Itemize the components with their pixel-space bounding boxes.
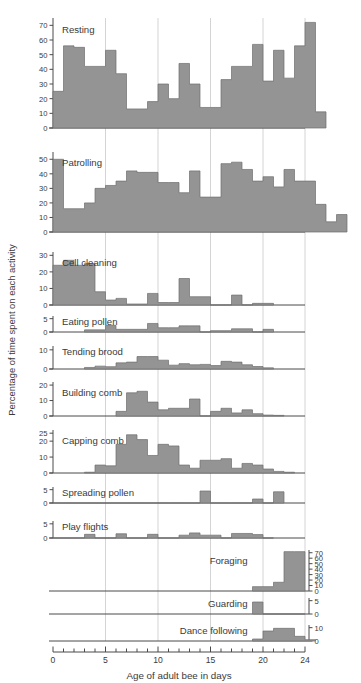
y-tick-label: 5	[315, 597, 319, 606]
y-tick-label: 10	[315, 624, 323, 633]
y-tick-label: 20	[39, 199, 47, 208]
bars-resting	[53, 22, 326, 128]
y-axis-title: Percentage of time spent on each activit…	[6, 244, 17, 416]
x-tick-label: 5	[103, 655, 108, 665]
bars-play-flights	[53, 533, 274, 538]
y-tick-label: 30	[39, 251, 47, 260]
panel-label: Capping comb	[62, 435, 124, 446]
panel-dance-following: 010Dance following	[49, 624, 323, 646]
y-tick-label: 20	[39, 437, 47, 446]
y-tick-label: 5	[43, 486, 47, 495]
x-tick-label: 20	[258, 655, 268, 665]
panel-guarding: 05Guarding	[49, 597, 319, 619]
panel-building-comb: 01020Building comb	[39, 381, 305, 421]
y-tick-label: 10	[39, 346, 47, 355]
y-tick-label: 5	[43, 315, 47, 324]
y-tick-label: 10	[39, 109, 47, 118]
panel-label: Tending brood	[62, 346, 123, 357]
y-tick-label: 20	[39, 95, 47, 104]
y-tick-label: 10	[39, 284, 47, 293]
y-tick-label: 70	[315, 549, 323, 558]
panel-label: Guarding	[208, 598, 247, 609]
panel-label: Spreading pollen	[62, 487, 134, 498]
panel-label: Building comb	[62, 387, 122, 398]
activity-panels-chart: 010203040506070Resting01020304050Patroll…	[0, 0, 361, 683]
bars-building-comb	[116, 391, 284, 416]
panel-label: Play flights	[62, 521, 109, 532]
panel-patrolling: 01020304050Patrolling	[39, 152, 347, 237]
y-tick-label: 20	[39, 381, 47, 390]
panel-label: Eating pollen	[62, 316, 117, 327]
y-tick-label: 25	[39, 429, 47, 438]
y-tick-label: 0	[43, 365, 47, 374]
y-tick-label: 0	[43, 301, 47, 310]
y-tick-label: 0	[43, 412, 47, 421]
panel-foraging: 010203040506070Foraging	[49, 549, 323, 596]
y-tick-label: 30	[39, 184, 47, 193]
y-tick-label: 0	[315, 637, 319, 646]
panel-cell-cleaning: 0102030Cell cleaning	[39, 251, 305, 310]
y-tick-label: 50	[39, 155, 47, 164]
panel-resting: 010203040506070Resting	[39, 18, 326, 133]
x-tick-label: 24	[300, 655, 310, 665]
panel-label: Foraging	[210, 555, 248, 566]
y-tick-label: 20	[39, 268, 47, 277]
panel-label: Dance following	[180, 625, 248, 636]
bars-tending-brood	[85, 357, 274, 369]
bars-guarding	[253, 602, 306, 614]
x-tick-label: 15	[206, 655, 216, 665]
y-tick-label: 5	[43, 520, 47, 529]
x-axis-title: Age of adult bee in days	[126, 670, 231, 681]
y-tick-label: 0	[43, 328, 47, 337]
panel-label: Resting	[62, 24, 95, 35]
y-tick-label: 40	[39, 65, 47, 74]
y-tick-label: 10	[39, 213, 47, 222]
y-tick-label: 30	[39, 80, 47, 89]
bars-dance-following	[253, 628, 316, 641]
y-tick-label: 10	[39, 396, 47, 405]
y-tick-label: 0	[43, 124, 47, 133]
y-tick-label: 50	[39, 51, 47, 60]
y-tick-label: 70	[39, 21, 47, 30]
panel-capping-comb: 0102025Capping comb	[39, 429, 305, 478]
bee-activity-figure: 010203040506070Resting01020304050Patroll…	[0, 0, 361, 683]
bars-foraging	[253, 552, 306, 591]
y-tick-label: 0	[43, 469, 47, 478]
panel-spreading-pollen: 05Spreading pollen	[43, 486, 305, 508]
bars-patrolling	[53, 159, 347, 232]
panel-eating-pollen: 05Eating pollen	[43, 315, 305, 337]
y-tick-label: 0	[43, 499, 47, 508]
y-tick-label: 0	[43, 534, 47, 543]
y-tick-label: 10	[39, 453, 47, 462]
y-tick-label: 60	[39, 36, 47, 45]
panel-tending-brood: 010Tending brood	[39, 346, 305, 374]
panel-label: Cell cleaning	[62, 257, 117, 268]
x-tick-label: 0	[51, 655, 56, 665]
panel-label: Patrolling	[62, 157, 102, 168]
y-tick-label: 0	[315, 610, 319, 619]
x-tick-label: 10	[153, 655, 163, 665]
y-tick-label: 0	[43, 228, 47, 237]
y-tick-label: 40	[39, 170, 47, 179]
panel-play-flights: 05Play flights	[43, 520, 305, 543]
